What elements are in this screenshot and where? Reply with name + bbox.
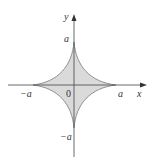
astroid-diagram: y x a a −a −a 0 [0, 0, 151, 162]
y-axis-arrow-icon [72, 14, 77, 21]
x-axis-arrow-icon [140, 83, 147, 88]
x-axis-label: x [136, 88, 142, 99]
top-cusp-label: a [64, 33, 69, 44]
left-cusp-label: −a [20, 88, 32, 99]
right-cusp-label: a [118, 88, 123, 99]
bottom-cusp-label: −a [60, 131, 72, 142]
origin-label: 0 [66, 88, 71, 99]
y-axis-label: y [63, 11, 69, 22]
